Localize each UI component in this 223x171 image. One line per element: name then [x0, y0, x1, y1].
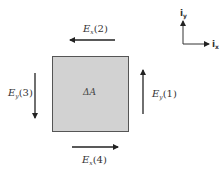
ey3-label: Ey(3) — [8, 88, 33, 99]
ex2-index: (2) — [94, 23, 108, 34]
iy-axis-label: iy — [180, 9, 187, 19]
area-label: ΔA — [83, 88, 96, 97]
ex2-label: Ex(2) — [83, 24, 108, 35]
ix-subscript: x — [215, 43, 219, 50]
area-label-text: ΔA — [83, 87, 96, 97]
field-loop-diagram: ΔA Ex(2) Ey(3) Ey(1) Ex(4) iy ix — [0, 0, 223, 171]
ey1-label: Ey(1) — [152, 89, 177, 100]
ey3-index: (3) — [19, 87, 33, 98]
diagram-graphics — [0, 0, 223, 171]
ex4-label: Ex(4) — [82, 155, 107, 166]
ey1-index: (1) — [163, 88, 177, 99]
ex4-index: (4) — [93, 154, 107, 165]
ix-axis-label: ix — [212, 40, 219, 50]
iy-subscript: y — [183, 12, 187, 19]
